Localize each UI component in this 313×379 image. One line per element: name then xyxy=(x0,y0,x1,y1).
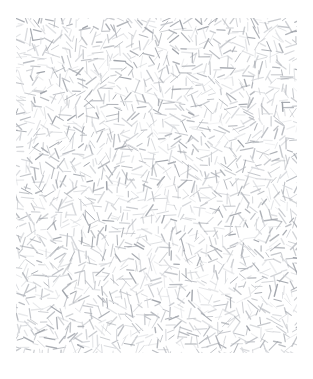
image-canvas xyxy=(0,0,313,379)
texture-dash-field xyxy=(16,18,297,353)
texture-panel xyxy=(16,18,297,353)
